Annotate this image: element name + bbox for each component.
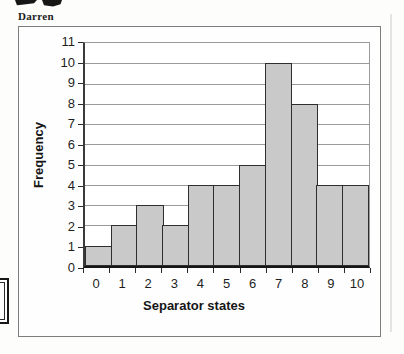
y-tick-mark	[78, 42, 83, 43]
handwritten-label-darren: Darren	[18, 10, 54, 22]
x-tick-label: 4	[187, 276, 213, 291]
y-tick-label: 1	[35, 239, 75, 255]
y-tick-label: 4	[35, 178, 75, 194]
x-tick-label: 8	[292, 276, 318, 291]
y-tick-label: 11	[35, 34, 75, 50]
bar	[136, 205, 163, 266]
bar	[213, 185, 240, 266]
x-tick-label: 6	[240, 276, 266, 291]
y-tick-mark	[78, 227, 83, 228]
x-tick-mark	[187, 268, 188, 273]
x-tick-mark	[135, 268, 136, 273]
y-tick-mark	[78, 206, 83, 207]
x-tick-mark	[266, 268, 267, 273]
y-tick-label: 9	[35, 75, 75, 91]
bar	[342, 185, 369, 266]
y-tick-mark	[78, 63, 83, 64]
x-tick-label: 5	[213, 276, 239, 291]
x-tick-mark	[83, 268, 84, 273]
x-tick-mark	[240, 268, 241, 273]
bars	[85, 43, 369, 266]
x-tick-mark	[292, 268, 293, 273]
x-tick-mark	[213, 268, 214, 273]
y-tick-label: 0	[35, 260, 75, 276]
cropped-ink-mark-icon	[15, 0, 65, 8]
y-tick-label: 8	[35, 96, 75, 112]
x-tick-mark	[344, 268, 345, 273]
bar	[162, 225, 189, 266]
page-edge-line	[390, 14, 392, 332]
x-tick-label: 0	[83, 276, 109, 291]
bar	[316, 185, 343, 266]
y-tick-label: 2	[35, 219, 75, 235]
x-tick-mark	[370, 268, 371, 273]
y-tick-label: 3	[35, 198, 75, 214]
bar	[265, 63, 292, 266]
y-tick-mark	[78, 145, 83, 146]
y-tick-mark	[78, 186, 83, 187]
x-axis-title: Separator states	[79, 298, 309, 313]
y-tick-label: 6	[35, 137, 75, 153]
x-tick-label: 3	[161, 276, 187, 291]
y-tick-mark	[78, 83, 83, 84]
x-tick-label: 1	[109, 276, 135, 291]
x-tick-label: 9	[318, 276, 344, 291]
x-tick-label: 2	[135, 276, 161, 291]
x-tick-label: 10	[344, 276, 370, 291]
bar	[111, 225, 138, 266]
bar	[85, 246, 112, 266]
y-tick-mark	[78, 165, 83, 166]
y-tick-mark	[78, 124, 83, 125]
bar	[188, 185, 215, 266]
bar	[291, 104, 318, 266]
cropped-box-inner-border	[0, 282, 5, 320]
y-tick-label: 10	[35, 55, 75, 71]
y-tick-label: 7	[35, 116, 75, 132]
plot-area	[83, 42, 370, 268]
x-tick-mark	[161, 268, 162, 273]
x-tick-mark	[109, 268, 110, 273]
y-tick-mark	[78, 247, 83, 248]
x-tick-mark	[318, 268, 319, 273]
y-tick-label: 5	[35, 157, 75, 173]
bar	[239, 165, 266, 266]
cropped-box-artifact	[0, 278, 9, 324]
x-tick-label: 7	[266, 276, 292, 291]
chart-frame: Frequency 01234567891011 012345678910 Se…	[18, 26, 381, 337]
y-tick-mark	[78, 104, 83, 105]
